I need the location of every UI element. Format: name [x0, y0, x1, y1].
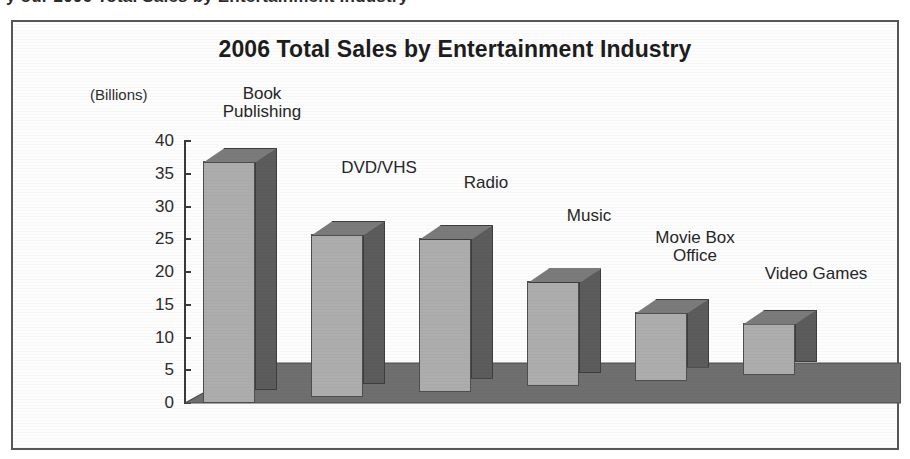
bar-label: DVD/VHS: [313, 159, 445, 177]
bar-column: [419, 22, 471, 452]
bar-front-face: [419, 238, 471, 392]
bar-side-face: [579, 268, 601, 373]
clipped-header-strip: y our 2006 Total Sales by Entertainment …: [0, 0, 910, 9]
bar-side-face: [255, 148, 277, 390]
bar-label: Book Publishing: [196, 85, 328, 122]
bars-layer: [13, 22, 901, 452]
bar-front-face: [743, 323, 795, 375]
bar-front-face: [203, 161, 255, 403]
bar-side-face: [471, 225, 493, 379]
bar-front-face: [311, 234, 363, 398]
bar-label: Radio: [431, 174, 541, 192]
bar-label: Movie Box Office: [629, 229, 761, 266]
bar-side-face: [363, 221, 385, 385]
clipped-header-text: y our 2006 Total Sales by Entertainment …: [6, 0, 408, 7]
chart-frame: 2006 Total Sales by Entertainment Indust…: [11, 20, 899, 450]
bar-front-face: [527, 281, 579, 386]
bar-label: Video Games: [743, 265, 889, 283]
screenshot-root: y our 2006 Total Sales by Entertainment …: [0, 0, 910, 459]
bar-column: [527, 22, 579, 452]
plot-area: (Billions) 4035302520151050 Book Publish…: [13, 22, 901, 452]
bar-label: Music: [534, 207, 644, 225]
bar-front-face: [635, 312, 687, 381]
